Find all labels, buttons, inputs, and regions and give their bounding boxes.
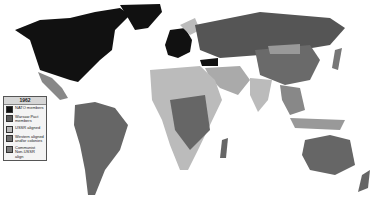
south-america (74, 102, 128, 195)
australia (302, 135, 355, 175)
legend-label: Warsaw Pact members (15, 115, 44, 124)
legend-item: USSR aligned (4, 125, 46, 134)
legend-item: Western aligned and/or colonies (4, 134, 46, 145)
southeast-asia (280, 85, 305, 115)
madagascar (220, 138, 228, 158)
map-shapes (0, 0, 378, 202)
swatch-icon (6, 146, 13, 153)
indonesia (290, 118, 345, 130)
swatch-icon (6, 106, 13, 113)
legend-title: 1962 (4, 97, 46, 105)
legend-item: Communist Non-USSR align (4, 145, 46, 161)
turkey (200, 58, 218, 66)
legend-label: NATO members (15, 106, 44, 111)
swatch-icon (6, 135, 13, 142)
swatch-icon (6, 126, 13, 133)
legend-label: USSR aligned (15, 126, 40, 131)
japan (332, 48, 342, 70)
world-map: 1962 NATO members Warsaw Pact members US… (0, 0, 378, 202)
new-zealand (358, 170, 370, 192)
north-america (15, 8, 130, 82)
legend-item: NATO members (4, 105, 46, 114)
legend-label: Communist Non-USSR align (15, 146, 44, 160)
legend-item: Warsaw Pact members (4, 114, 46, 125)
india (250, 78, 272, 112)
legend-label: Western aligned and/or colonies (15, 135, 44, 144)
map-legend: 1962 NATO members Warsaw Pact members US… (3, 96, 47, 161)
swatch-icon (6, 115, 13, 122)
